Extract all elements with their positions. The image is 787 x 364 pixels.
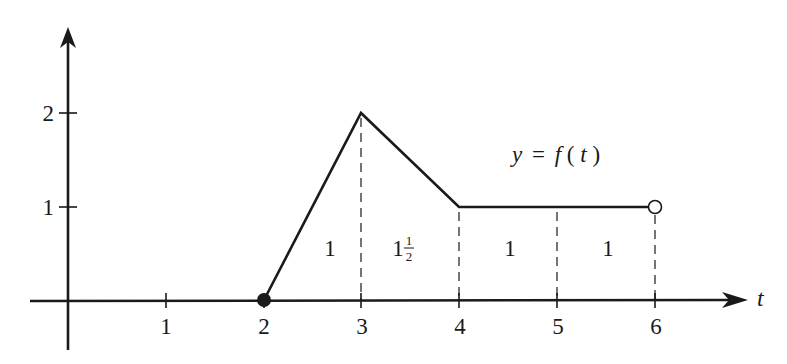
- area-label-5-6: 1: [602, 236, 614, 261]
- area-label-3-4-numerator: 1: [406, 233, 413, 248]
- function-label-f: f: [555, 142, 565, 167]
- x-tick-label-6: 6: [650, 314, 662, 339]
- function-label-y: y: [510, 142, 523, 167]
- area-label-2-3: 1: [324, 236, 336, 261]
- x-tick-label-2: 2: [258, 314, 270, 339]
- x-axis-variable-label: t: [757, 285, 765, 311]
- function-label-open-paren: (: [567, 142, 575, 167]
- y-tick-label-1: 1: [43, 195, 55, 220]
- area-label-3-4-whole: 1: [392, 236, 404, 261]
- function-label-equals: =: [532, 142, 545, 167]
- area-label-3-4: 1 1 2: [392, 233, 414, 264]
- y-tick-label-2: 2: [43, 101, 55, 126]
- area-label-4-5: 1: [504, 236, 516, 261]
- function-label: y = f ( t ): [510, 142, 600, 167]
- x-tick-label-1: 1: [160, 314, 172, 339]
- area-label-3-4-denominator: 2: [406, 249, 413, 264]
- closed-endpoint-marker: [257, 293, 271, 307]
- x-tick-label-5: 5: [552, 314, 564, 339]
- x-axis: [30, 300, 735, 301]
- x-tick-label-3: 3: [356, 314, 368, 339]
- dashed-guides: [361, 118, 655, 300]
- open-endpoint-marker: [649, 201, 662, 214]
- function-label-close-paren: ): [592, 142, 600, 167]
- axes: 1 2 3 4 5 6 1 2 t: [30, 27, 765, 350]
- x-tick-label-4: 4: [454, 314, 466, 339]
- function-label-t: t: [580, 142, 587, 167]
- function-graph: 1 2 3 4 5 6 1 2 t y = f ( t ) 1 1 1 2 1: [0, 0, 787, 364]
